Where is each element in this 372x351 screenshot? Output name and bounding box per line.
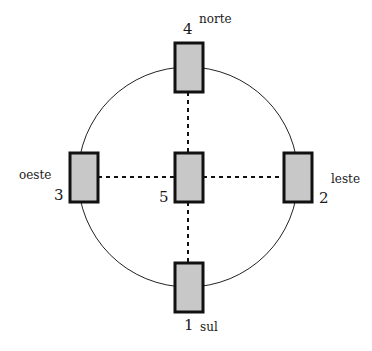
card-1-number: 1 (184, 316, 194, 334)
direction-south-label: sul (200, 320, 218, 334)
card-1-south (175, 263, 203, 312)
card-2-number: 2 (319, 189, 329, 207)
card-2-east (284, 153, 312, 202)
card-4-number: 4 (183, 20, 193, 38)
direction-north-label: norte (199, 12, 232, 26)
card-5-center (175, 153, 203, 202)
card-3-number: 3 (54, 186, 64, 204)
card-spread-diagram (0, 0, 372, 351)
card-3-west (70, 153, 98, 202)
direction-west-label: oeste (19, 168, 51, 182)
direction-east-label: leste (331, 172, 360, 186)
card-4-north (175, 43, 203, 92)
card-5-number: 5 (159, 188, 169, 206)
